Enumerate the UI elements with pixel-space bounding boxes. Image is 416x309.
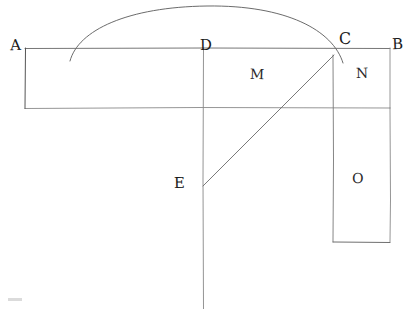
point-label-C: C: [339, 31, 352, 48]
point-label-D: D: [200, 38, 212, 53]
point-label-E: E: [174, 176, 185, 191]
diagonal-line-EC: [203, 55, 334, 186]
rect-O-bottom-edge: [333, 242, 390, 243]
rect-O-right-edge: [390, 108, 391, 242]
region-label-N: N: [356, 66, 368, 80]
geometric-diagram: A D C B E M N O: [0, 0, 416, 309]
vertical-drop-from-C: [333, 55, 334, 242]
region-label-O: O: [352, 171, 364, 185]
point-label-A: A: [10, 38, 21, 53]
vertical-axis-through-D: [203, 48, 204, 309]
scan-artifact: [8, 298, 22, 301]
point-label-B: B: [392, 37, 404, 52]
semicircular-arc: [70, 6, 343, 63]
band-bottom-line: [25, 108, 390, 109]
region-label-M: M: [250, 67, 265, 81]
band-left-edge: [25, 48, 26, 109]
